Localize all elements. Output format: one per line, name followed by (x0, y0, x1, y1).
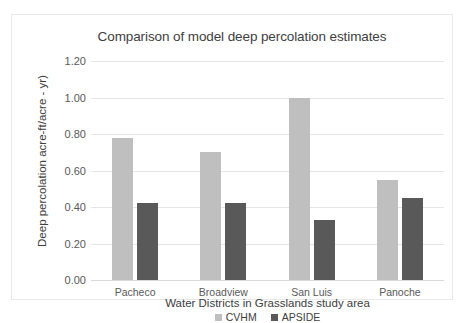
y-axis-title: Deep percolation acre-ft/acre - yr) (34, 61, 50, 261)
y-axis-title-label: Deep percolation acre-ft/acre - yr) (36, 75, 48, 247)
y-axis-tick-label: 1.00 (65, 92, 86, 104)
bar-cvhm-broadview[interactable] (200, 152, 221, 280)
legend-item-cvhm[interactable]: CVHM (215, 311, 257, 323)
y-axis-tick-label: 1.20 (65, 55, 86, 67)
y-axis-tick-label: 0.00 (65, 274, 86, 286)
x-axis-title: Water Districts in Grasslands study area (91, 297, 444, 309)
legend-label: APSIDE (282, 311, 321, 323)
bar-apside-panoche[interactable] (402, 198, 423, 280)
bar-cvhm-panoche[interactable] (377, 180, 398, 280)
bar-apside-pacheco[interactable] (137, 203, 158, 280)
gridline (91, 171, 444, 172)
axis-baseline (91, 280, 444, 281)
bar-apside-broadview[interactable] (225, 203, 246, 280)
bar-cvhm-pacheco[interactable] (112, 138, 133, 280)
legend-swatch-icon (215, 314, 222, 321)
y-axis-tick-label: 0.40 (65, 201, 86, 213)
chart-frame: Comparison of model deep percolation est… (11, 14, 453, 300)
chart-legend: CVHMAPSIDE (91, 311, 444, 323)
y-axis-tick-label: 0.80 (65, 128, 86, 140)
legend-item-apside[interactable]: APSIDE (271, 311, 321, 323)
bar-apside-san-luis[interactable] (314, 220, 335, 280)
y-axis-tick-label: 0.20 (65, 238, 86, 250)
legend-label: CVHM (226, 311, 257, 323)
gridline (91, 98, 444, 99)
gridline (91, 61, 444, 62)
chart-title: Comparison of model deep percolation est… (72, 29, 412, 44)
bar-cvhm-san-luis[interactable] (289, 98, 310, 281)
y-axis-tick-label: 0.60 (65, 165, 86, 177)
legend-swatch-icon (271, 314, 278, 321)
gridline (91, 134, 444, 135)
plot-area: 1.201.000.800.600.400.200.00PachecoBroad… (91, 61, 444, 280)
